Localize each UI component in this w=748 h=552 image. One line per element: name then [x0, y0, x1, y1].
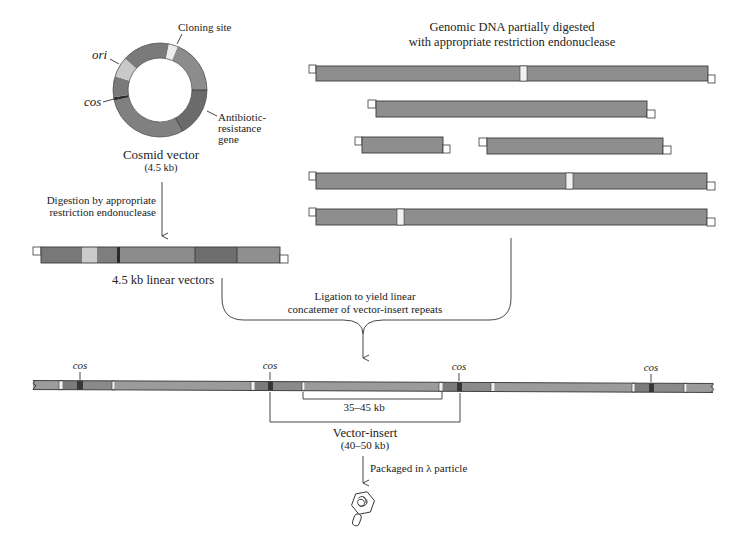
vector-segment [83, 381, 112, 390]
cos-label-2: cos [263, 359, 278, 371]
vector-insert-label: Vector-insert [333, 426, 398, 440]
sticky-end-left [355, 137, 362, 145]
cos-label-4: cos [644, 361, 659, 373]
genomic-fragment-6 [309, 208, 715, 226]
vector-segment [635, 383, 649, 392]
insert-segment [687, 383, 713, 392]
vector-segment [237, 247, 280, 263]
sticky-end-left [479, 138, 487, 146]
insert-segment [495, 383, 632, 393]
concatemer [33, 381, 714, 393]
sticky-end-right [280, 255, 288, 263]
junction [491, 383, 495, 392]
vector-segment-ori [82, 247, 97, 263]
cosmid-cloning-diagram: Cloning site ori cos Antibiotic- resista… [0, 0, 748, 552]
digestion-label-line2: restriction endonuclease [49, 206, 156, 218]
ring-segment-cloning-site [168, 51, 175, 53]
genomic-dna-title-line1: Genomic DNA partially digested [430, 20, 596, 34]
vector-segment-resistance [195, 247, 237, 263]
genomic-fragment-1 [309, 65, 715, 83]
ori-leader [110, 59, 119, 64]
cos-label-1: cos [73, 359, 88, 371]
cos-leader [103, 99, 114, 102]
vector-segment [462, 382, 491, 391]
sticky-end-right [707, 182, 715, 190]
fragment-body [316, 66, 708, 81]
restriction-site [566, 173, 573, 189]
vector-segment [273, 382, 302, 391]
sticky-end-right [443, 145, 450, 153]
genomic-fragment-2 [368, 100, 655, 118]
ring-segment-upper-right [175, 53, 200, 90]
cloning-site-leader [177, 34, 182, 44]
linear-vector [33, 247, 288, 263]
junction [251, 381, 255, 390]
insert-segment [305, 382, 439, 392]
sticky-end-left [309, 65, 316, 73]
ring-inner-edge [128, 58, 192, 122]
fragment-body [487, 138, 663, 154]
restriction-site [520, 66, 527, 81]
genomic-fragment-5 [309, 172, 715, 190]
vector-segment [41, 247, 82, 263]
ring-segment-top [131, 51, 168, 64]
resistance-label-line3: gene [218, 133, 239, 145]
genomic-fragment-3 [355, 137, 450, 153]
restriction-site [397, 209, 404, 225]
phage-head [349, 488, 376, 517]
genomic-fragment-4 [479, 138, 671, 154]
sticky-end-right [707, 218, 715, 226]
ligation-label-line1: Ligation to yield linear [314, 290, 415, 302]
junction [302, 382, 305, 391]
cos-site [457, 382, 462, 391]
vector-segment [120, 247, 195, 263]
insert-size-label: 35–45 kb [343, 401, 385, 413]
cos-site [268, 382, 273, 391]
diagram-canvas: Cloning site ori cos Antibiotic- resista… [0, 0, 748, 552]
fragment-body [316, 209, 707, 225]
ring-segment-bottom [122, 99, 180, 130]
cosmid-vector-ring [113, 43, 207, 137]
ring-segment-cos [121, 96, 122, 99]
cosmid-vector-size: (4.5 kb) [144, 162, 178, 174]
cos-label: cos [84, 94, 101, 109]
ligation-label-line2: concatemer of vector-insert repeats [288, 303, 443, 315]
insert-segment [115, 381, 251, 391]
cos-site [649, 383, 654, 392]
sticky-end-left [309, 172, 316, 180]
phage-tail [352, 513, 363, 527]
insert-size-bracket [303, 392, 442, 399]
packaging-label: Packaged in λ particle [370, 462, 467, 474]
vector-insert-size: (40–50 kb) [341, 439, 390, 452]
ring-segment-left [121, 78, 123, 96]
cos-site [77, 381, 83, 390]
junction [684, 383, 687, 392]
insert-segment [33, 381, 59, 390]
digestion-label-line1: Digestion by appropriate [47, 194, 156, 206]
fragment-body [362, 137, 443, 153]
ori-label: ori [92, 47, 108, 62]
sticky-end-right [708, 75, 715, 83]
sticky-end-right [663, 146, 671, 154]
cloning-site-label: Cloning site [178, 21, 232, 33]
fragment-body [376, 101, 647, 117]
genomic-dna-title-line2: with appropriate restriction endonucleas… [409, 35, 616, 49]
sticky-end-left [368, 100, 376, 108]
vector-segment [97, 247, 117, 263]
vector-segment [443, 382, 457, 391]
vector-segment [654, 383, 684, 392]
cosmid-vector-title: Cosmid vector [123, 147, 200, 162]
ring-segment-ori [122, 64, 130, 79]
junction [59, 381, 63, 390]
sticky-end-left [309, 208, 316, 216]
cos-label-3: cos [452, 360, 467, 372]
junction [632, 383, 635, 392]
linear-vectors-label: 4.5 kb linear vectors [112, 273, 214, 287]
sticky-end-right [647, 110, 655, 118]
vector-segment [255, 381, 268, 390]
lambda-phage-particle-icon [345, 488, 376, 529]
vector-segment [63, 381, 77, 390]
junction [112, 381, 115, 390]
junction [439, 382, 443, 391]
vector-segment-cos [117, 247, 120, 263]
